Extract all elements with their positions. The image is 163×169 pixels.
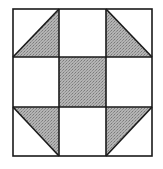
quilt-block-diagram xyxy=(0,0,163,169)
center-square xyxy=(59,57,106,107)
